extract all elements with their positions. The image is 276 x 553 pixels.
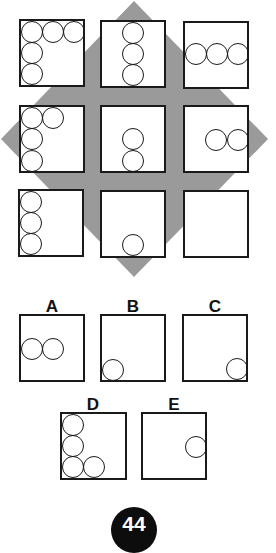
circle-icon [122,150,144,172]
circle-icon [185,436,207,458]
option-d[interactable] [60,412,127,480]
grid-cell-r1c2 [100,20,166,88]
circle-icon [122,128,144,150]
circle-icon [63,21,85,43]
circle-icon [205,129,227,151]
circle-icon [20,233,42,255]
circle-icon [226,358,248,380]
grid-cell-r2c2 [100,105,166,173]
option-e[interactable] [141,412,207,480]
circle-icon [122,64,144,86]
circle-icon [42,338,64,360]
circle-icon [62,414,84,436]
circle-icon [21,21,43,43]
circle-icon [21,338,43,360]
option-c[interactable] [182,314,248,382]
circle-icon [21,42,43,64]
circle-icon [102,359,124,381]
grid-cell-r3c2 [100,190,166,258]
circle-icon [122,234,144,256]
circle-icon [122,43,144,65]
circle-icon [185,43,207,65]
circle-icon [20,212,42,234]
circle-icon [62,435,84,457]
circle-icon [42,107,64,129]
circle-icon [21,150,43,172]
circle-icon [122,22,144,44]
circle-icon [42,21,64,43]
page-number-badge: 44 [111,507,157,553]
option-b[interactable] [100,314,166,382]
grid-cell-r2c1 [19,105,85,173]
grid-cell-r1c3 [183,21,249,89]
circle-icon [62,456,84,478]
grid-cell-r3c1 [18,189,84,257]
circle-icon [21,63,43,85]
grid-cell-r2c3 [183,105,249,173]
circle-icon [20,191,42,213]
circle-icon [227,129,249,151]
option-a[interactable] [19,314,85,382]
circle-icon [206,43,228,65]
grid-cell-r3c3-missing[interactable] [183,190,249,258]
grid-cell-r1c1 [19,19,85,87]
circle-icon [227,43,249,65]
circle-icon [83,456,105,478]
circle-icon [21,107,43,129]
circle-icon [21,128,43,150]
